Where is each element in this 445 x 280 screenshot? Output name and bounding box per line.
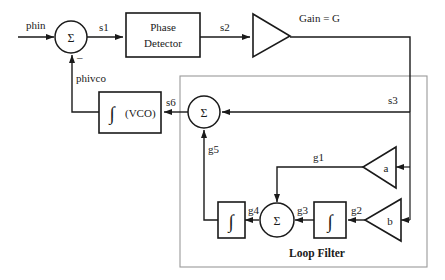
gain-triangle-b[interactable] [365,199,401,241]
signal-label-phivco: phivco [76,72,106,84]
signal-label-g5: g5 [208,143,220,155]
signal-label-s3: s3 [388,94,398,106]
signal-label-s2: s2 [220,21,230,33]
signal-label-g1: g1 [313,151,324,163]
gain-triangle-G[interactable] [253,14,290,57]
signal-label-g4: g4 [248,204,260,216]
signal-label-g2: g2 [351,204,362,216]
wire-g1-gain-a-to-sum3 [277,167,363,202]
gain-label: Gain = G [299,12,340,24]
gain-triangle-a[interactable] [363,147,396,188]
phase-detector-label-line2: Detector [144,37,182,49]
diagram-canvas: Σ Σ Σ Phase Detector Gain = G ∫ (VCO) ∫ … [0,0,445,280]
summing-junction-2-symbol: Σ [201,106,208,120]
loop-filter-label: Loop Filter [289,247,345,260]
phase-detector-block[interactable] [126,13,200,57]
summing-junction-3-symbol: Σ [274,214,281,228]
signal-label-s6: s6 [166,96,176,108]
signal-label-g3: g3 [297,204,309,216]
pll-block-diagram: Σ Σ Σ Phase Detector Gain = G ∫ (VCO) ∫ … [0,0,445,280]
signal-label-s1: s1 [99,21,109,33]
gain-a-label: a [384,162,389,174]
phase-detector-label-line1: Phase [150,21,176,33]
signal-label-phin: phin [26,19,46,31]
summing-junction-1-symbol: Σ [68,31,75,45]
sign-label-minus: – [76,51,83,63]
gain-b-label: b [387,215,393,227]
vco-label: (VCO) [125,107,156,120]
